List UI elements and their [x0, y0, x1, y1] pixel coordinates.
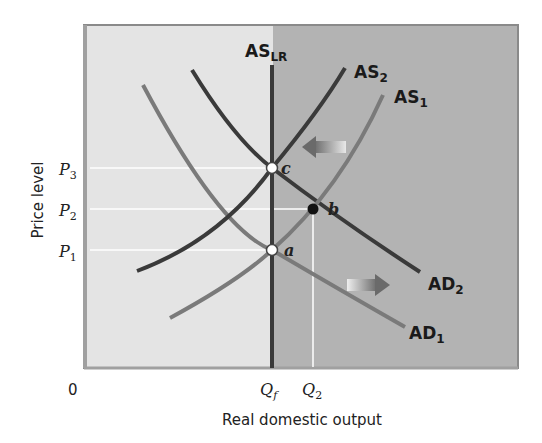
- x-axis-label: Real domestic output: [222, 411, 382, 429]
- point-b: [308, 204, 319, 215]
- point-c: [267, 163, 278, 174]
- panel-left: [84, 25, 273, 368]
- tick-qf: Qf: [260, 380, 279, 402]
- tick-p3: P3: [58, 160, 77, 182]
- tick-q2: Q2: [302, 380, 322, 402]
- ad-as-diagram: c b a ASLR AS2 AS1 AD2 AD1 P3 P2 P1 Pric…: [0, 0, 542, 443]
- label-b: b: [328, 200, 339, 219]
- label-c: c: [281, 159, 291, 178]
- tick-p1: P1: [58, 242, 77, 264]
- tick-p2: P2: [58, 201, 77, 223]
- point-a: [267, 245, 278, 256]
- label-a: a: [284, 241, 294, 260]
- y-axis-label: Price level: [29, 161, 47, 238]
- origin-label: 0: [68, 381, 78, 399]
